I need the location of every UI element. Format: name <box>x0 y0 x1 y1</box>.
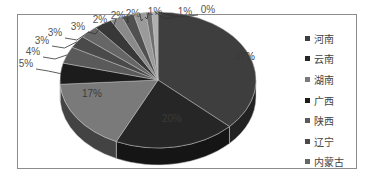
legend-swatch <box>305 98 310 103</box>
legend-label: 广西 <box>314 93 334 108</box>
legend-item: 广西 <box>305 90 344 111</box>
slice-label: 2% <box>111 10 126 21</box>
slice-label: 3% <box>48 27 63 38</box>
legend-label: 湖南 <box>314 72 334 87</box>
legend-label: 辽宁 <box>314 134 334 149</box>
slice-label: 5% <box>19 58 34 69</box>
leader-line <box>43 55 67 59</box>
legend-label: 陕西 <box>314 113 334 128</box>
legend-item: 陕西 <box>305 110 344 131</box>
legend-swatch <box>305 36 310 41</box>
slice-label: 0% <box>201 4 216 15</box>
legend-label: 云南 <box>314 51 334 66</box>
legend-item: 云南 <box>305 49 344 70</box>
slice-label: 3% <box>71 21 86 32</box>
slice-label: 1% <box>178 6 193 17</box>
legend-item: 湖南 <box>305 69 344 90</box>
slice-label: 37% <box>235 51 255 62</box>
legend-swatch <box>305 159 310 164</box>
legend: 河南 云南 湖南 广西 陕西 辽宁 内蒙古 <box>305 28 344 172</box>
legend-swatch <box>305 118 310 123</box>
legend-item: 内蒙古 <box>305 152 344 173</box>
legend-item: 河南 <box>305 28 344 49</box>
slice-label: 2% <box>126 8 141 19</box>
legend-item: 辽宁 <box>305 131 344 152</box>
legend-label: 内蒙古 <box>314 154 344 169</box>
legend-swatch <box>305 77 310 82</box>
legend-swatch <box>305 139 310 144</box>
slice-label: 4% <box>26 46 41 57</box>
slice-label: 17% <box>82 88 102 99</box>
slice-label: 20% <box>162 113 182 124</box>
legend-label: 河南 <box>314 31 334 46</box>
legend-swatch <box>305 56 310 61</box>
leader-line <box>36 69 60 74</box>
slice-label: 2% <box>93 14 108 25</box>
